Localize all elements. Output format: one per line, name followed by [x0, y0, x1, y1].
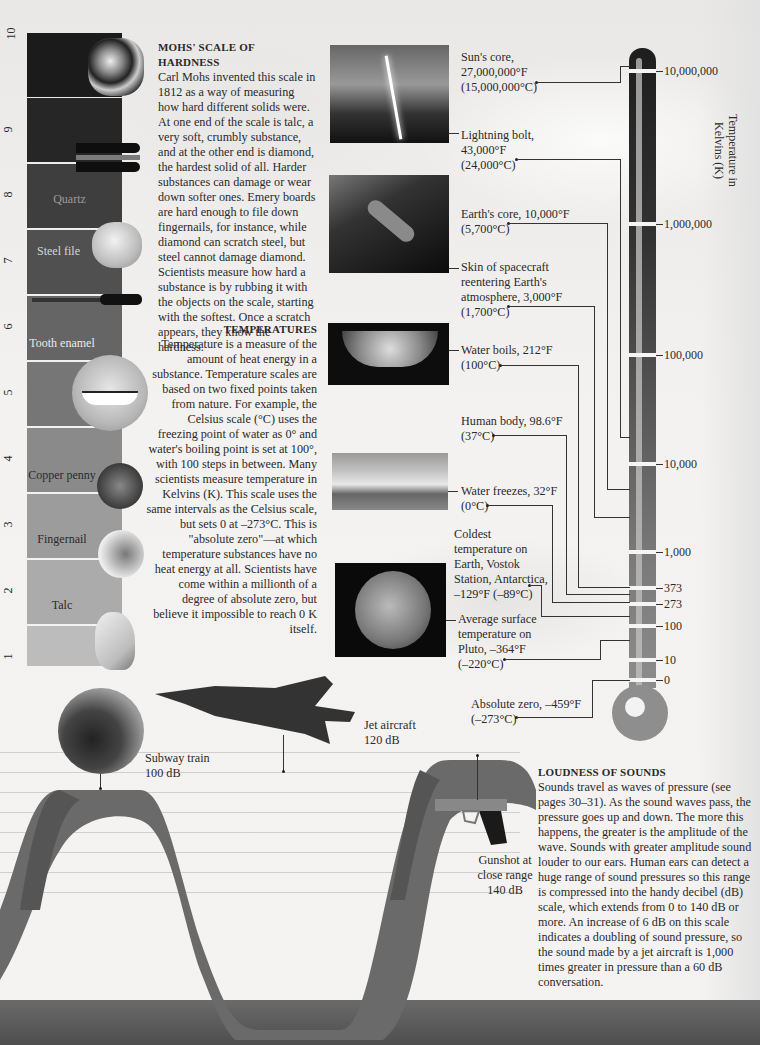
label-jet-aircraft: Jet aircraft120 dB	[364, 718, 416, 748]
label-subway-train: Subway train100 dB	[145, 751, 210, 781]
sounds-text-block: LOUDNESS OF SOUNDS Sounds travel as wave…	[538, 765, 753, 990]
mohs-number-5: 5	[1, 390, 16, 396]
label-lightning-bolt: Lightning bolt,43,000°F(24,000°C)	[461, 128, 534, 173]
tick-0: 0	[664, 673, 670, 688]
mohs-band-8: Quartz	[27, 164, 122, 228]
tick-10: 10	[664, 653, 676, 668]
label-gunshot: Gunshot atclose range140 dB	[470, 853, 540, 898]
emery-board-strip	[76, 155, 140, 160]
band-label-talc: Talc	[27, 598, 97, 612]
tick-10000000: 10,000,000	[664, 64, 718, 79]
tick-100000: 100,000	[664, 348, 703, 363]
smile-icon	[72, 355, 148, 431]
band-label-quartz: Quartz	[27, 192, 112, 206]
boiling-water-photo	[328, 323, 449, 385]
band-label-tooth-enamel: Tooth enamel	[27, 336, 97, 350]
lightning-photo	[330, 45, 449, 143]
tick-373: 373	[664, 581, 682, 596]
thermometer-axis-title: Temperature in Kelvins (K)	[670, 100, 740, 200]
label-water-freezes: Water freezes, 32°F(0°C)	[461, 484, 557, 514]
steel-file-handle	[100, 294, 142, 305]
mohs-number-2: 2	[1, 588, 16, 594]
mohs-number-3: 3	[1, 522, 16, 528]
diamond-icon	[88, 38, 144, 96]
mohs-number-9: 9	[1, 127, 16, 133]
steel-file-icon	[32, 298, 102, 302]
mohs-band-6: Tooth enamel	[27, 296, 122, 360]
mohs-number-10: 10	[4, 28, 19, 40]
label-human-body: Human body, 98.6°F(37°C)	[461, 414, 563, 444]
sounds-heading: LOUDNESS OF SOUNDS	[538, 765, 753, 780]
label-suns-core: Sun's core,27,000,000°F(15,000,000°C)	[461, 50, 537, 95]
temperatures-text-block: TEMPERATURES Temperature is a measure of…	[145, 322, 317, 637]
jet-aircraft-icon	[155, 676, 360, 746]
thermometer-tube	[629, 48, 656, 688]
label-absolute-zero: Absolute zero, –459°F(–273°C)	[471, 697, 581, 727]
emery-board-handle	[76, 162, 140, 172]
penny-icon	[97, 463, 143, 509]
sound-wave-ribbon	[0, 740, 540, 1040]
label-water-boils: Water boils, 212°F(100°C)	[461, 343, 553, 373]
tick-100: 100	[664, 619, 682, 634]
mohs-number-7: 7	[1, 258, 16, 264]
temperatures-heading: TEMPERATURES	[145, 322, 317, 337]
label-coldest-earth: Coldesttemperature onEarth, VostokStatio…	[454, 527, 548, 602]
label-pluto: Average surfacetemperature onPluto, –364…	[458, 612, 537, 672]
tick-1000000: 1,000,000	[664, 217, 712, 232]
mohs-body: Carl Mohs invented this scale in 1812 as…	[158, 70, 316, 355]
pluto-photo	[335, 563, 446, 657]
tick-273: 273	[664, 597, 682, 612]
spacecraft-photo	[329, 175, 449, 273]
band-label-fingernail: Fingernail	[27, 532, 97, 546]
thermometer-bulb	[612, 685, 668, 741]
band-label-copper-penny: Copper penny	[27, 468, 97, 482]
tick-1000: 1,000	[664, 545, 691, 560]
label-spacecraft-skin: Skin of spacecraftreentering Earth'satmo…	[461, 260, 562, 320]
subway-train-photo	[58, 688, 144, 774]
temperatures-body: Temperature is a measure of the amount o…	[145, 337, 317, 637]
emery-board-icon	[76, 143, 140, 153]
tick-10000: 10,000	[664, 457, 697, 472]
mohs-number-1: 1	[1, 654, 16, 660]
hand-icon	[98, 530, 144, 578]
quartz-crystal-icon	[92, 222, 142, 268]
mohs-number-6: 6	[1, 324, 16, 330]
sounds-body: Sounds travel as waves of pressure (see …	[538, 780, 753, 990]
iceberg-photo	[332, 453, 448, 510]
mohs-number-8: 8	[1, 192, 16, 198]
mohs-heading: MOHS' SCALE OF HARDNESS	[158, 40, 316, 70]
talc-rock-icon	[95, 612, 135, 670]
mohs-text-block: MOHS' SCALE OF HARDNESS Carl Mohs invent…	[158, 40, 316, 355]
mohs-number-4: 4	[1, 456, 16, 462]
handgun-icon	[435, 795, 515, 850]
thermometer-inner-column	[636, 58, 642, 688]
label-earths-core: Earth's core, 10,000°F(5,700°C)	[461, 207, 570, 237]
